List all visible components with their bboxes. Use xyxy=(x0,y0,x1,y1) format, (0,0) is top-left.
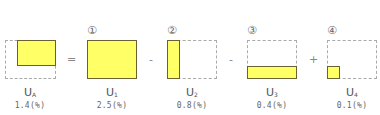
u4-label: U4 xyxy=(327,87,377,98)
u3-value: 0.4(%) xyxy=(247,101,297,110)
ua-label: UA xyxy=(5,87,55,98)
marker-3: ③ xyxy=(247,25,257,36)
u1-label: U1 xyxy=(87,87,137,98)
marker-1: ① xyxy=(87,25,97,36)
u2-fill xyxy=(167,40,180,79)
u2-label: U2 xyxy=(167,87,217,98)
u1-value: 2.5(%) xyxy=(87,101,137,110)
u4-value: 0.1(%) xyxy=(327,101,377,110)
plus-operator: + xyxy=(309,54,318,65)
u3-label: U3 xyxy=(247,87,297,98)
u4-fill xyxy=(327,66,340,79)
minus-operator-1: - xyxy=(149,54,153,65)
u1-fill xyxy=(87,40,137,79)
marker-4: ④ xyxy=(327,25,337,36)
equals-operator: = xyxy=(67,54,76,65)
marker-2: ② xyxy=(167,25,177,36)
u2-value: 0.8(%) xyxy=(167,101,217,110)
u3-fill xyxy=(247,66,297,79)
ua-value: 1.4(%) xyxy=(5,101,55,110)
minus-operator-2: - xyxy=(229,54,233,65)
ua-fill xyxy=(17,40,56,66)
